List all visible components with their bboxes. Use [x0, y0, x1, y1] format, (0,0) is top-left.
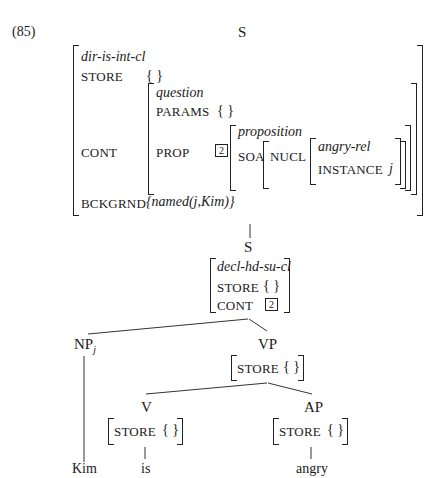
s-attr-store: STORE: [217, 281, 259, 294]
avm-type-angry-rel: angry-rel: [318, 140, 370, 154]
np-label: NP: [74, 336, 93, 352]
vp-attr-store: STORE: [237, 362, 279, 375]
avm-type-decl-hd-su-cl: decl-hd-su-cl: [217, 260, 291, 274]
example-number: (85): [12, 25, 35, 39]
outer-avm-left-bracket: [73, 45, 79, 216]
ap-node-label: AP: [304, 400, 323, 415]
attr-nucl: NUCL: [270, 150, 306, 163]
vp-store-value: { }: [283, 360, 300, 374]
attr-instance: INSTANCE: [318, 163, 383, 176]
attr-prop: PROP: [156, 146, 189, 159]
angry-rel-left-bracket: [310, 138, 316, 185]
attr-soa: SOA: [238, 150, 265, 163]
attr-bckgrnd: BCKGRND: [81, 197, 146, 210]
v-store-value: { }: [162, 423, 179, 437]
branch-vp-to-v: [146, 383, 267, 394]
ap-store-value: { }: [327, 423, 344, 437]
v-attr-store: STORE: [114, 425, 156, 438]
store-value: { }: [146, 69, 163, 83]
question-left-bracket: [148, 83, 154, 195]
branch-s-to-np: [88, 319, 248, 334]
s-store-value: { }: [263, 279, 280, 293]
avm-type-dir-is-int-cl: dir-is-int-cl: [81, 50, 145, 64]
soa-left-bracket: [263, 141, 269, 189]
ap-attr-store: STORE: [279, 425, 321, 438]
s-avm-left-bracket: [210, 258, 216, 313]
s-attr-cont: CONT: [217, 299, 253, 312]
v-node-label: V: [141, 400, 152, 415]
branch-s-to-vp: [249, 319, 267, 331]
instance-value: j: [389, 162, 393, 176]
top-s-label: S: [238, 25, 246, 40]
attr-store: STORE: [81, 70, 123, 83]
attr-cont: CONT: [81, 146, 117, 159]
np-subscript: j: [93, 344, 96, 355]
branch-vp-to-ap: [268, 383, 312, 394]
np-node-label: NPj: [74, 337, 96, 355]
word-kim: Kim: [72, 462, 97, 476]
attr-params: PARAMS: [156, 105, 209, 118]
bckgrnd-value: {named(j,Kim)}: [146, 195, 235, 209]
s-node-label: S: [244, 240, 252, 255]
avm-type-proposition: proposition: [238, 125, 302, 139]
avm-type-question: question: [156, 86, 203, 100]
outer-avm-right-bracket: [417, 45, 423, 216]
angry-rel-right-bracket: [395, 138, 401, 185]
prop-tag-2: 2: [215, 144, 228, 157]
question-right-bracket: [411, 83, 417, 195]
proposition-left-bracket: [230, 125, 236, 191]
s-cont-tag-2: 2: [265, 298, 278, 311]
word-angry: angry: [296, 462, 328, 476]
word-is: is: [141, 462, 150, 476]
vp-node-label: VP: [258, 337, 277, 352]
tree-branches: [0, 0, 434, 478]
params-value: { }: [217, 104, 234, 118]
